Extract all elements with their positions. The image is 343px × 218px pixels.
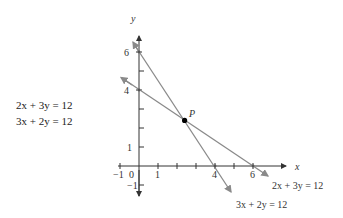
x-tick-4: 4 xyxy=(212,169,217,180)
point-p-label: P xyxy=(188,108,195,119)
line-2x-3y-12-arrow-back xyxy=(121,78,132,86)
x-tick-6: 6 xyxy=(250,169,255,180)
line-3x-2y-12-label: 3x + 2y = 12 xyxy=(236,199,287,210)
x-tick-1: 1 xyxy=(155,169,160,180)
y-ticks xyxy=(136,52,144,185)
x-intercept-6 xyxy=(252,165,255,168)
line-2x-3y-12 xyxy=(122,78,268,176)
y-tick-4: 4 xyxy=(124,85,129,96)
y-intercept-6 xyxy=(138,51,141,54)
y-tick-neg1: −1 xyxy=(127,180,138,191)
graph: y x P 6 4 1 −1 −1 0 1 4 6 2x + 3y = 12 3… xyxy=(0,0,343,218)
x-tick-0: 0 xyxy=(129,169,134,180)
y-tick-1: 1 xyxy=(127,142,132,153)
x-axis-label: x xyxy=(294,161,300,172)
y-intercept-4 xyxy=(138,89,141,92)
point-p xyxy=(182,118,187,123)
line-2x-3y-12-label: 2x + 3y = 12 xyxy=(272,180,323,191)
line-3x-2y-12-arrow-back xyxy=(133,42,139,52)
y-tick-6: 6 xyxy=(124,47,129,58)
y-axis-label: y xyxy=(130,13,136,24)
x-tick-neg1: −1 xyxy=(113,169,124,180)
x-intercept-4 xyxy=(214,165,217,168)
